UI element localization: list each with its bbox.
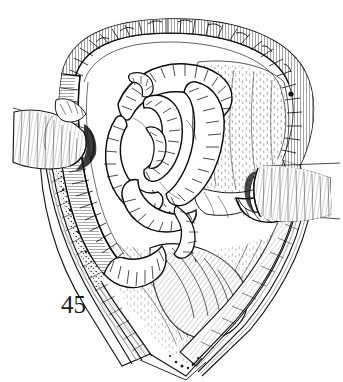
- illustration-plate: 45: [0, 0, 343, 382]
- epiploic-appendage-marker: [288, 91, 293, 96]
- anatomical-figure: [0, 0, 343, 382]
